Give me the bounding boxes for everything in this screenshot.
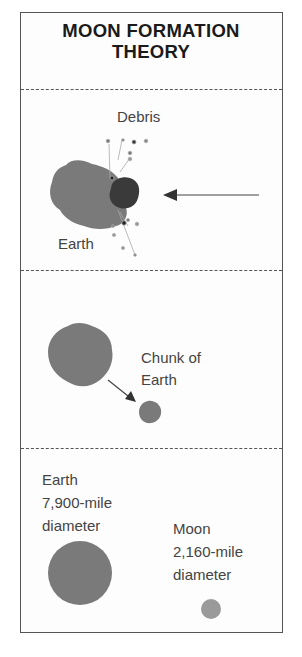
earth-name: Earth (42, 468, 112, 491)
chunk-blob-icon (139, 401, 161, 423)
chunk-label-line-2: Earth (141, 369, 201, 391)
chunk-label-line-1: Chunk of (141, 347, 201, 369)
incoming-arrow-icon (163, 189, 259, 201)
earth-diameter-label: Earth 7,900-mile diameter (42, 468, 112, 537)
earth-label: Earth (58, 235, 94, 253)
earth-diameter-value: 7,900-mile (42, 491, 112, 514)
earth-blob-icon (48, 323, 113, 386)
moon-diameter-unit: diameter (173, 563, 243, 586)
moon-circle-icon (201, 599, 221, 619)
earth-diameter-unit: diameter (42, 514, 112, 537)
earth-circle-icon (48, 541, 112, 605)
chunk-of-earth-label: Chunk of Earth (141, 347, 201, 391)
impactor-blob-icon (109, 177, 139, 208)
chunk-arrow-icon (108, 380, 136, 402)
moon-diameter-label: Moon 2,160-mile diameter (173, 517, 243, 586)
moon-diameter-value: 2,160-mile (173, 540, 243, 563)
moon-name: Moon (173, 517, 243, 540)
debris-label: Debris (117, 108, 160, 126)
diagram-graphics (0, 0, 302, 657)
